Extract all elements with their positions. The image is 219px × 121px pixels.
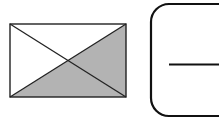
rounded-box-outline: [151, 4, 219, 116]
rounded-box-group: [151, 4, 219, 116]
diagram-canvas: [0, 0, 219, 121]
rectangle-with-diagonals: [10, 24, 126, 97]
